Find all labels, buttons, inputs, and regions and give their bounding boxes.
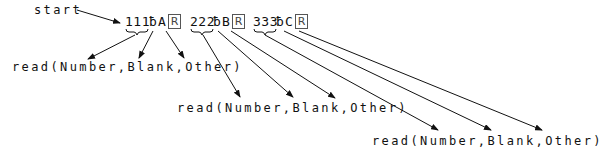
- token-2-blank: ƀ: [213, 14, 221, 29]
- return-key-icon: R: [232, 14, 245, 29]
- arrow-3-other: [299, 31, 542, 130]
- read-call-1: read(Number,Blank,Other): [12, 60, 243, 74]
- brace-111: [126, 29, 148, 35]
- return-key-icon: R: [168, 14, 181, 29]
- brace-222: [191, 29, 213, 35]
- return-key-icon: R: [295, 14, 308, 29]
- token-2-letter: B: [222, 14, 230, 29]
- token-1-digits: 111: [125, 14, 150, 29]
- token-2-digits: 222: [190, 14, 215, 29]
- arrow-3-blank: [284, 31, 491, 130]
- read-call-2: read(Number,Blank,Other): [177, 101, 408, 115]
- token-1-letter: A: [158, 14, 166, 29]
- token-3-blank: ƀ: [276, 14, 284, 29]
- token-1-blank: ƀ: [149, 14, 157, 29]
- start-label: start: [34, 3, 82, 17]
- token-3-digits: 333: [253, 14, 278, 29]
- read-call-3: read(Number,Blank,Other): [372, 134, 603, 148]
- arrow-1-other: [166, 31, 184, 58]
- arrow-1-number: [88, 35, 135, 59]
- arrow-1-blank: [139, 31, 153, 58]
- start-arrow: [77, 10, 120, 23]
- brace-333: [254, 29, 276, 35]
- token-3-letter: C: [285, 14, 293, 29]
- arrow-3-number: [265, 35, 438, 130]
